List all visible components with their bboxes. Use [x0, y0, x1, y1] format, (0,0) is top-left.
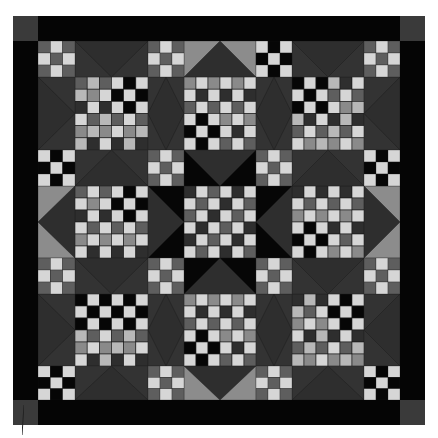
nine-patch-block — [364, 41, 400, 77]
checkerboard-block — [292, 186, 364, 258]
sashing-triangle-block — [184, 41, 256, 77]
sashing-triangle-block — [75, 258, 148, 294]
sashing-triangle-block — [38, 186, 75, 258]
sashing-triangle-block — [364, 186, 400, 258]
quilt — [13, 16, 425, 425]
checkerboard-block — [184, 77, 256, 150]
sashing-triangle-block — [256, 77, 292, 150]
checkerboard-block — [75, 186, 148, 258]
sashing-triangle-block — [184, 150, 256, 186]
sashing-triangle-block — [292, 366, 364, 400]
nine-patch-block — [38, 366, 75, 400]
corner-square-bottom-right — [400, 400, 425, 425]
nine-patch-block — [148, 258, 184, 294]
sashing-triangle-block — [256, 186, 292, 258]
nine-patch-block — [38, 41, 75, 77]
sashing-triangle-block — [256, 294, 292, 366]
checkerboard-block — [75, 294, 148, 366]
quilt-center-field — [38, 41, 400, 400]
nine-patch-block — [148, 150, 184, 186]
nine-patch-block — [148, 366, 184, 400]
nine-patch-block — [38, 150, 75, 186]
nine-patch-block — [38, 258, 75, 294]
sashing-triangle-block — [75, 41, 148, 77]
corner-square-top-right — [400, 16, 425, 41]
sashing-triangle-block — [38, 77, 75, 150]
sashing-triangle-block — [38, 294, 75, 366]
sashing-triangle-block — [75, 366, 148, 400]
sashing-triangle-block — [148, 186, 184, 258]
sashing-triangle-block — [184, 258, 256, 294]
checkerboard-block — [75, 77, 148, 150]
nine-patch-block — [256, 41, 292, 77]
nine-patch-block — [364, 150, 400, 186]
pen-mark — [22, 405, 24, 435]
checkerboard-block — [184, 186, 256, 258]
nine-patch-block — [364, 366, 400, 400]
sashing-triangle-block — [364, 294, 400, 366]
nine-patch-block — [256, 150, 292, 186]
sashing-triangle-block — [75, 150, 148, 186]
sashing-triangle-block — [292, 150, 364, 186]
sashing-triangle-block — [364, 77, 400, 150]
sashing-triangle-block — [292, 258, 364, 294]
sashing-triangle-block — [184, 366, 256, 400]
checkerboard-block — [292, 294, 364, 366]
nine-patch-block — [364, 258, 400, 294]
checkerboard-block — [292, 77, 364, 150]
corner-square-bottom-left — [13, 400, 38, 425]
nine-patch-block — [256, 366, 292, 400]
nine-patch-block — [256, 258, 292, 294]
sashing-triangle-block — [292, 41, 364, 77]
sashing-triangle-block — [148, 294, 184, 366]
sashing-triangle-block — [148, 77, 184, 150]
nine-patch-block — [148, 41, 184, 77]
checkerboard-block — [184, 294, 256, 366]
corner-square-top-left — [13, 16, 38, 41]
